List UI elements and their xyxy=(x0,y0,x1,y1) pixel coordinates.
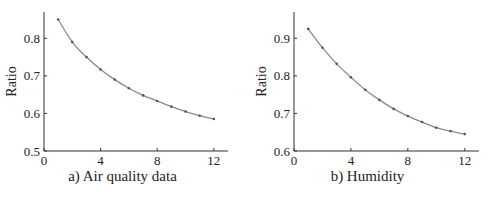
data-point-marker xyxy=(321,46,324,49)
y-tick-label: 0.6 xyxy=(274,144,291,159)
data-point-marker xyxy=(99,68,102,71)
y-tick-label: 0.6 xyxy=(24,106,41,121)
data-point-marker xyxy=(364,88,367,91)
data-point-marker xyxy=(198,114,201,117)
data-point-marker xyxy=(113,78,116,81)
y-tick-label: 0.5 xyxy=(24,144,40,159)
data-point-marker xyxy=(57,18,60,21)
line-chart-air-quality: 0.50.60.70.804812Time interval (hours)Ra… xyxy=(0,0,245,170)
data-series-line xyxy=(308,29,465,134)
data-point-marker xyxy=(307,28,310,31)
x-tick-label: 4 xyxy=(348,153,355,168)
data-point-marker xyxy=(407,115,410,118)
y-tick-label: 0.7 xyxy=(24,68,41,83)
data-point-marker xyxy=(378,99,381,102)
data-series-line xyxy=(58,20,214,120)
data-point-marker xyxy=(71,41,74,44)
y-tick-label: 0.8 xyxy=(24,31,40,46)
data-point-marker xyxy=(85,56,88,59)
data-point-marker xyxy=(184,110,187,113)
data-point-marker xyxy=(350,76,353,79)
y-axis-label: Ratio xyxy=(254,66,269,96)
chart-caption: a) Air quality data xyxy=(0,168,245,185)
data-point-marker xyxy=(463,133,466,136)
chart-caption: b) Humidity xyxy=(245,168,490,185)
data-point-marker xyxy=(213,118,216,121)
y-tick-label: 0.9 xyxy=(274,31,290,46)
data-point-marker xyxy=(142,94,145,97)
x-tick-label: 0 xyxy=(291,153,298,168)
chart-panel-humidity: 0.60.70.80.904812Time interval (hours)Ra… xyxy=(245,0,490,208)
data-point-marker xyxy=(170,105,173,108)
x-tick-label: 4 xyxy=(97,153,104,168)
y-tick-label: 0.7 xyxy=(274,106,291,121)
line-chart-humidity: 0.60.70.80.904812Time interval (hours)Ra… xyxy=(245,0,490,170)
x-tick-label: 12 xyxy=(207,153,220,168)
data-point-marker xyxy=(392,108,395,111)
x-tick-label: 8 xyxy=(405,153,412,168)
y-axis-label: Ratio xyxy=(4,66,19,96)
x-tick-label: 12 xyxy=(458,153,471,168)
x-tick-label: 8 xyxy=(154,153,161,168)
data-point-marker xyxy=(128,87,131,90)
x-tick-label: 0 xyxy=(41,153,48,168)
data-point-marker xyxy=(435,126,438,129)
data-point-marker xyxy=(335,63,338,66)
chart-panel-air-quality: 0.50.60.70.804812Time interval (hours)Ra… xyxy=(0,0,245,208)
data-point-marker xyxy=(156,100,159,103)
y-tick-label: 0.8 xyxy=(274,68,290,83)
data-point-marker xyxy=(449,130,452,133)
data-point-marker xyxy=(421,121,424,124)
